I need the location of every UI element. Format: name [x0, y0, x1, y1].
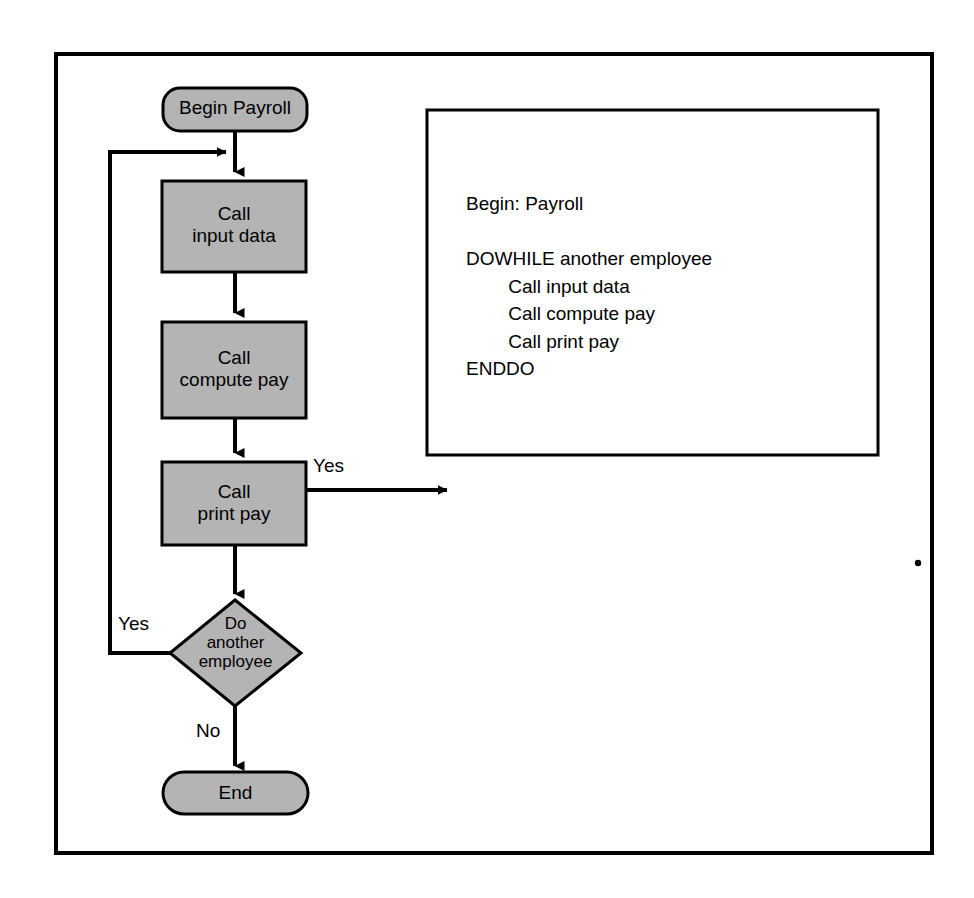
edge-label-loop-yes: Yes — [118, 613, 149, 635]
flowchart-vector-layer — [0, 0, 974, 898]
flowchart-canvas: Begin Payroll Call input data Call compu… — [0, 0, 974, 898]
node-print-shape[interactable] — [162, 462, 306, 545]
node-input-shape[interactable] — [162, 181, 306, 272]
pseudocode-text: Begin: Payroll DOWHILE another employee … — [466, 190, 866, 383]
edge-label-decision-no: No — [196, 720, 220, 742]
node-end-shape[interactable] — [163, 772, 308, 814]
node-compute-shape[interactable] — [162, 322, 306, 418]
edge-label-print-yes: Yes — [313, 455, 344, 477]
stray-dot-mark — [915, 560, 921, 566]
node-begin-shape[interactable] — [163, 88, 307, 131]
